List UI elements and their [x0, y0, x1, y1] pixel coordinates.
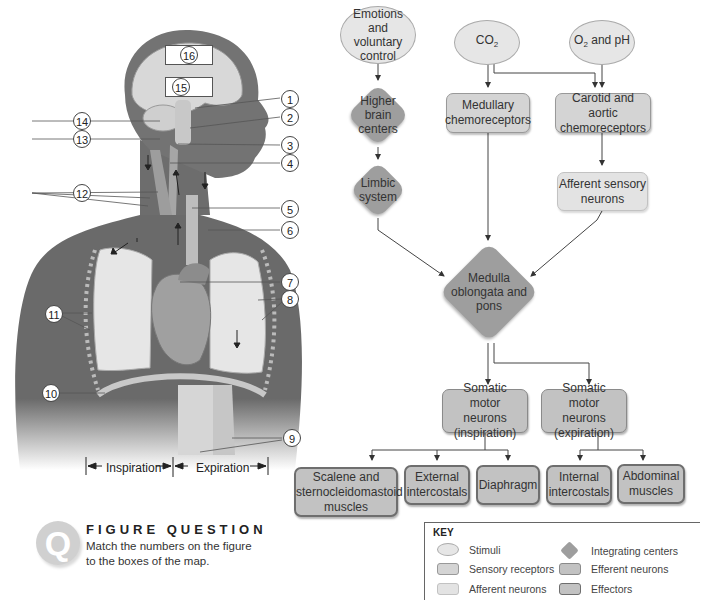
efferent-expiration-text: Somatic motor neurons (expiration)	[546, 381, 622, 441]
stimulus-co2: CO2	[454, 20, 520, 65]
co2-sub: 2	[494, 40, 498, 49]
stimulus-emotions-text: Emotions and voluntary control	[347, 7, 409, 63]
sensory-medullary-chemoreceptors: Medullary chemoreceptors	[446, 93, 530, 133]
sensory-carotid-aortic-chemoreceptors: Carotid and aortic chemoreceptors	[555, 93, 651, 133]
effector-diaphragm: Diaphragm	[476, 465, 540, 505]
afferent-text: Afferent sensory neurons	[558, 177, 647, 207]
efferent-somatic-motor-expiration: Somatic motor neurons (expiration)	[541, 389, 627, 433]
key-item-sensory-receptors: Sensory receptors	[437, 563, 554, 575]
int-intercostals-text: Internal intercostals	[548, 470, 610, 500]
effector-abdominal-muscles: Abdominal muscles	[617, 464, 685, 504]
key-label-effectors: Effectors	[591, 583, 632, 595]
integrating-medulla-oblongata-pons: Medulla oblongata and pons	[440, 242, 538, 342]
key-label-integrating: Integrating centers	[591, 545, 678, 557]
diaphragm-text: Diaphragm	[479, 478, 538, 493]
co2-base: CO	[476, 33, 494, 47]
figure-question-text: Match the numbers on the figure to the b…	[86, 539, 256, 569]
efferent-somatic-motor-inspiration: Somatic motor neurons (inspiration)	[442, 389, 528, 433]
medulla-text: Medulla oblongata and pons	[443, 271, 535, 313]
key-item-integrating-centers: Integrating centers	[559, 542, 678, 560]
key-item-stimuli: Stimuli	[437, 543, 501, 556]
medullary-text: Medullary chemoreceptors	[445, 98, 531, 128]
efferent-swatch-icon	[559, 563, 581, 575]
higher-brain-centers-text: Higher brain centers	[356, 94, 400, 136]
effector-swatch-icon	[559, 583, 581, 595]
afferent-swatch-icon	[437, 583, 459, 595]
abdominal-text: Abdominal muscles	[621, 469, 681, 499]
key-label-afferent: Afferent neurons	[469, 583, 546, 595]
stimulus-co2-text: CO2	[476, 33, 498, 52]
key-title: KEY	[433, 527, 454, 538]
efferent-inspiration-text: Somatic motor neurons (inspiration)	[447, 381, 523, 441]
limbic-system-text: Limbic system	[356, 176, 400, 204]
q-glyph: Q	[36, 521, 80, 565]
carotid-text: Carotid and aortic chemoreceptors	[556, 91, 650, 136]
key-item-effectors: Effectors	[559, 583, 632, 595]
key-item-efferent-neurons: Efferent neurons	[559, 563, 668, 575]
effector-internal-intercostals: Internal intercostals	[546, 465, 612, 505]
key-label-stimuli: Stimuli	[469, 544, 501, 556]
ext-intercostals-text: External intercostals	[406, 470, 468, 500]
figure-question-icon: Q	[36, 521, 80, 565]
ellipse-swatch-icon	[437, 543, 459, 556]
stimulus-emotions: Emotions and voluntary control	[340, 6, 416, 64]
key-item-afferent-neurons: Afferent neurons	[437, 583, 546, 595]
integrating-limbic-system: Limbic system	[350, 162, 406, 218]
effector-external-intercostals: External intercostals	[404, 465, 470, 505]
sensory-swatch-icon	[437, 563, 459, 575]
o2-rest: and pH	[588, 33, 630, 47]
scalene-text: Scalene and sternocleidomastoid muscles	[296, 470, 396, 515]
diamond-swatch-icon	[559, 542, 581, 560]
figure-question-title: FIGURE QUESTION	[86, 522, 267, 537]
stimulus-o2-ph: O2 and pH	[569, 20, 635, 65]
key-label-sensory: Sensory receptors	[469, 563, 554, 575]
key-label-efferent: Efferent neurons	[591, 563, 668, 575]
effector-scalene-sternocleidomastoid: Scalene and sternocleidomastoid muscles	[294, 467, 398, 517]
integrating-higher-brain-centers: Higher brain centers	[348, 83, 408, 147]
afferent-sensory-neurons: Afferent sensory neurons	[557, 172, 648, 211]
legend-key: KEY Stimuli Sensory receptors Afferent n…	[424, 522, 700, 600]
stimulus-o2-ph-text: O2 and pH	[574, 33, 630, 52]
